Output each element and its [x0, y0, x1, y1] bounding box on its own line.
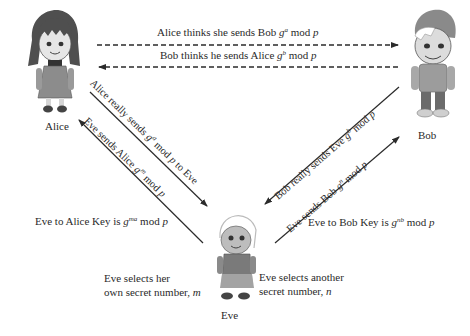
note-var: m: [193, 286, 201, 298]
key-mod: mod: [137, 215, 162, 227]
eve-figure-icon: [210, 208, 266, 304]
label-alice-thinks: Alice thinks she sends Bob ga mod p: [157, 27, 318, 38]
msg-mod: mod: [286, 49, 311, 61]
note-eve-secret-m: Eve selects her own secret number, m: [104, 271, 201, 299]
label-eve-alice-key: Eve to Alice Key is gma mod p: [35, 216, 168, 227]
msg-p: p: [311, 49, 317, 61]
key-p: p: [429, 216, 435, 228]
bob-label: Bob: [418, 130, 436, 141]
note-line: Eve selects another: [259, 270, 344, 284]
note-line: secret number,: [259, 285, 326, 297]
msg-text: Alice thinks she sends Bob: [157, 26, 279, 38]
key-text: Eve to Alice Key is: [35, 215, 123, 227]
alice-label: Alice: [45, 121, 69, 132]
msg-mod: mod: [288, 26, 313, 38]
msg-text: Bob thinks he sends Alice: [160, 49, 277, 61]
key-exp: nb: [397, 216, 404, 224]
label-eve-bob-key: Eve to Bob Key is gnb mod p: [308, 217, 434, 228]
note-line: own secret number,: [104, 286, 193, 298]
label-bob-thinks: Bob thinks he sends Alice gb mod p: [160, 50, 317, 61]
key-p: p: [162, 215, 168, 227]
alice-figure-icon: [24, 10, 84, 115]
msg-p: p: [313, 26, 319, 38]
note-var: n: [326, 285, 332, 297]
note-line: Eve selects her: [104, 271, 201, 285]
key-mod: mod: [404, 216, 429, 228]
bob-figure-icon: [405, 6, 463, 121]
eve-label: Eve: [221, 310, 238, 321]
note-eve-secret-n: Eve selects another secret number, n: [259, 270, 344, 298]
key-text: Eve to Bob Key is: [308, 216, 391, 228]
